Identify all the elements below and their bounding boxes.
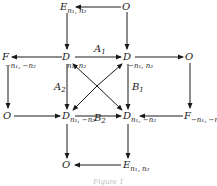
node-letter: F — [2, 51, 9, 62]
node-mid1-D-right: D−n₁, n₂ — [123, 52, 156, 66]
node-subscript: n₁, n₂ — [67, 7, 86, 15]
edge-subscript: 1 — [139, 86, 143, 94]
node-letter: D — [123, 110, 131, 121]
node-subscript: −n₁, −n₂ — [191, 116, 217, 124]
node-mid1-F: F−n₁, −n₂ — [2, 52, 40, 66]
node-bot-O: O — [62, 160, 70, 170]
edge-label-B1: B1 — [132, 82, 144, 95]
edge-label-B2: B2 — [94, 113, 106, 126]
arrow-diag-to-DBottomRight — [97, 86, 122, 110]
node-letter: F — [184, 110, 191, 121]
node-letter: O — [3, 110, 11, 121]
node-subscript: −n₁, n₂ — [128, 62, 153, 70]
node-mid2-D-left: Dn₁, −n₂ — [62, 111, 95, 125]
edge-label-A1: A1 — [94, 44, 106, 57]
diagram-arrows — [0, 0, 217, 186]
node-letter: O — [185, 51, 193, 62]
arrow-diag-to-DTopRight — [97, 64, 122, 86]
figure-caption: Figure 1 — [0, 178, 217, 186]
edge-label-A2: A2 — [54, 82, 66, 95]
node-bot-E: En₁, n₂ — [123, 160, 149, 174]
node-mid2-D-right: Dn₁, −n₂ — [123, 111, 156, 125]
node-subscript: n₁, −n₂ — [131, 116, 156, 124]
node-mid1-O: O — [185, 52, 193, 62]
node-letter: O — [62, 159, 70, 170]
node-subscript: −n₁, −n₂ — [5, 62, 36, 70]
node-letter: D — [62, 51, 70, 62]
edge-subscript: 1 — [101, 48, 105, 56]
node-subscript: n₁, n₂ — [67, 62, 86, 70]
node-letter: D — [62, 110, 70, 121]
node-subscript: n₁, −n₂ — [70, 116, 95, 124]
node-top-O: O — [122, 2, 130, 12]
node-mid1-D-left: Dn₁, n₂ — [62, 52, 89, 66]
edge-subscript: 2 — [101, 117, 105, 125]
node-mid2-F: F−n₁, −n₂ — [184, 111, 217, 125]
node-letter: D — [123, 51, 131, 62]
node-top-E: En₁, n₂ — [60, 2, 86, 16]
node-subscript: n₁, n₂ — [130, 165, 149, 173]
edge-subscript: 2 — [61, 86, 65, 94]
node-letter: O — [122, 1, 130, 12]
arrow-diag-to-DBottomLeft — [73, 86, 97, 110]
node-mid2-O: O — [3, 111, 11, 121]
